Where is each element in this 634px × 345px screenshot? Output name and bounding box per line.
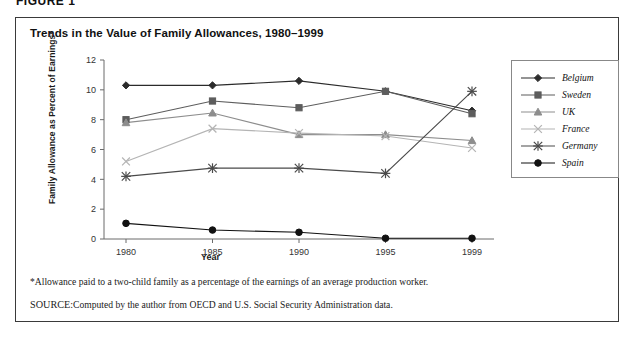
svg-text:2: 2 bbox=[91, 204, 96, 214]
legend-label-spain: Spain bbox=[557, 158, 584, 168]
legend-item[interactable]: Belgium bbox=[512, 69, 618, 86]
legend-label-sweden: Sweden bbox=[557, 90, 591, 100]
legend-label-belgium: Belgium bbox=[557, 73, 594, 83]
svg-text:10: 10 bbox=[86, 85, 96, 95]
svg-text:0: 0 bbox=[91, 234, 96, 244]
figure-number-label: FIGURE 1 bbox=[16, 0, 75, 8]
svg-text:1999: 1999 bbox=[462, 247, 482, 257]
footnote-allowance: *Allowance paid to a two-child family as… bbox=[30, 276, 428, 287]
legend-swatch-germany bbox=[519, 139, 557, 153]
source-prefix-label: SOURCE: bbox=[30, 299, 73, 310]
figure-panel: Trends in the Value of Family Allowances… bbox=[15, 17, 619, 322]
chart-legend: Belgium Sweden UK France Germany Spain bbox=[511, 60, 619, 178]
legend-swatch-spain bbox=[519, 156, 557, 170]
svg-text:8: 8 bbox=[91, 115, 96, 125]
legend-item[interactable]: Germany bbox=[512, 137, 618, 154]
svg-text:1985: 1985 bbox=[202, 247, 222, 257]
legend-swatch-france bbox=[519, 122, 557, 136]
legend-item[interactable]: UK bbox=[512, 103, 618, 120]
legend-item[interactable]: Sweden bbox=[512, 86, 618, 103]
legend-label-germany: Germany bbox=[557, 141, 597, 151]
legend-label-uk: UK bbox=[557, 107, 575, 117]
legend-item[interactable]: Spain bbox=[512, 154, 618, 171]
svg-text:1995: 1995 bbox=[375, 247, 395, 257]
source-text: Computed by the author from OECD and U.S… bbox=[73, 299, 393, 310]
footnote-source: SOURCE:Computed by the author from OECD … bbox=[30, 299, 393, 310]
svg-text:12: 12 bbox=[86, 55, 96, 65]
legend-swatch-belgium bbox=[519, 71, 557, 85]
legend-label-france: France bbox=[557, 124, 589, 134]
legend-swatch-sweden bbox=[519, 88, 557, 102]
legend-swatch-uk bbox=[519, 105, 557, 119]
figure-title: Trends in the Value of Family Allowances… bbox=[30, 27, 324, 39]
svg-text:4: 4 bbox=[91, 175, 96, 185]
svg-text:1990: 1990 bbox=[289, 247, 309, 257]
legend-item[interactable]: France bbox=[512, 120, 618, 137]
svg-text:1980: 1980 bbox=[116, 247, 136, 257]
svg-text:6: 6 bbox=[91, 145, 96, 155]
